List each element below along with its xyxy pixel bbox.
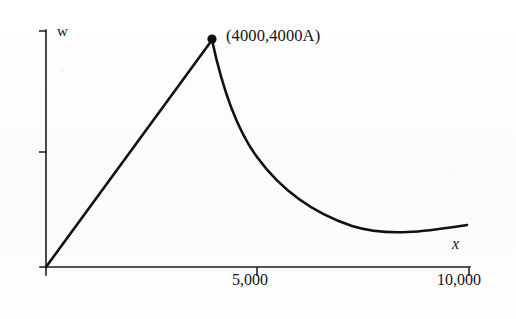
curve-linear-rise [46,40,212,267]
x-tick-label-10000: 10,000 [437,272,481,288]
x-axis-label: x [452,236,459,252]
peak-point-marker [207,34,216,43]
peak-point-annotation: (4000,4000A) [226,28,320,45]
chart-figure: w x (4000,4000A) 5,000 10,000 [0,0,516,319]
y-axis-label: w [57,24,68,39]
x-tick-label-5000: 5,000 [232,272,268,288]
curve-exponential-decay [212,40,467,232]
